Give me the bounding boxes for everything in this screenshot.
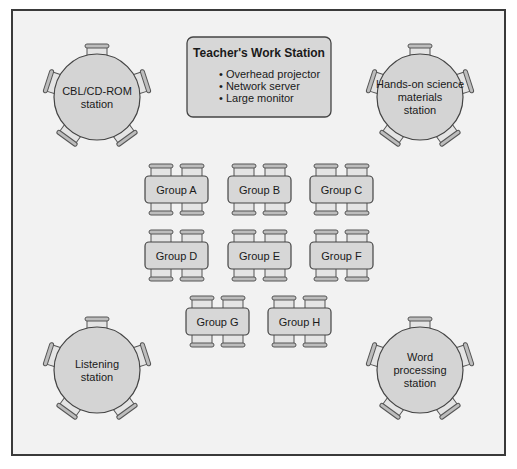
group-label: Group C (321, 184, 363, 196)
station-label: Hands-on science (376, 78, 464, 90)
group-label: Group G (196, 316, 238, 328)
group-label: Group F (321, 250, 362, 262)
station-label: processing (393, 364, 446, 376)
classroom-layout-diagram: CBL/CD-ROMstationHands-on sciencemateria… (0, 0, 517, 469)
teacher-station-item: • Network server (219, 80, 300, 92)
station-label: materials (398, 91, 443, 103)
teacher-work-station: Teacher's Work Station • Overhead projec… (187, 37, 331, 117)
group-label: Group A (156, 184, 197, 196)
station-label: station (404, 377, 436, 389)
station-label: Listening (75, 358, 119, 370)
station-label: CBL/CD-ROM (62, 85, 132, 97)
group-label: Group D (156, 250, 198, 262)
group-label: Group E (239, 250, 280, 262)
station-label: station (404, 104, 436, 116)
diagram-canvas: CBL/CD-ROMstationHands-on sciencemateria… (0, 0, 517, 469)
group-label: Group B (239, 184, 280, 196)
teacher-station-title: Teacher's Work Station (193, 46, 325, 60)
station-label: Word (407, 351, 433, 363)
station-label: station (81, 98, 113, 110)
teacher-station-item: • Large monitor (219, 92, 294, 104)
teacher-station-item: • Overhead projector (219, 68, 320, 80)
group-label: Group H (279, 316, 321, 328)
station-label: station (81, 371, 113, 383)
